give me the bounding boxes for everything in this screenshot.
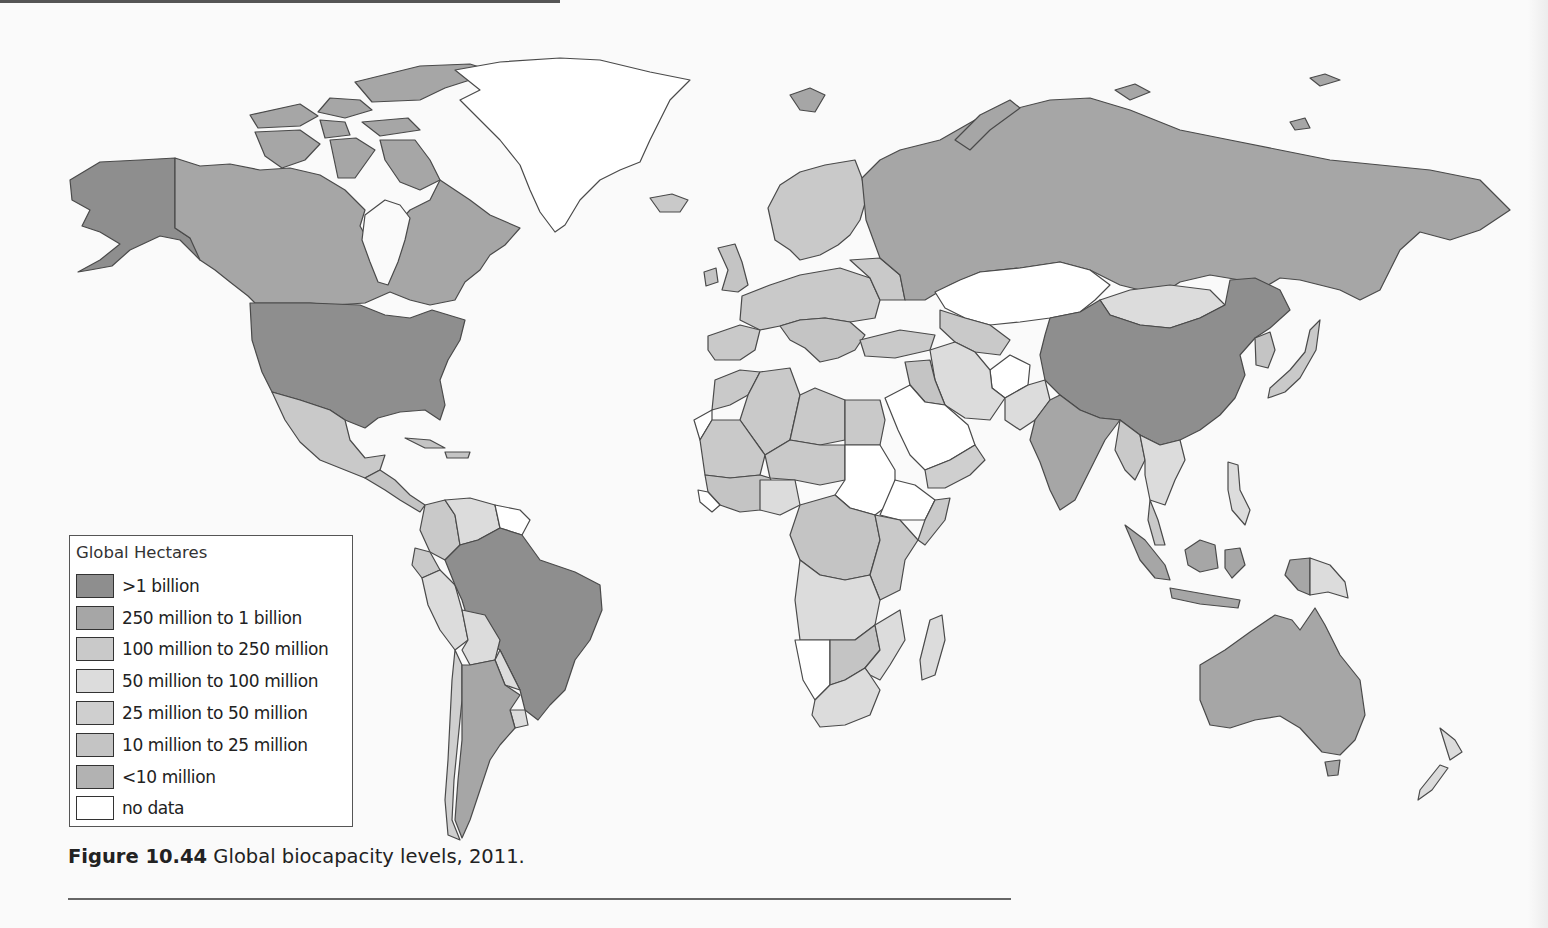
figure-caption: Figure 10.44 Global biocapacity levels, …	[68, 845, 525, 868]
legend-label: no data	[122, 798, 184, 818]
legend-swatch	[76, 574, 114, 598]
region-thailand-indochina	[1140, 435, 1185, 505]
region-madagascar	[920, 615, 945, 680]
caption-divider	[68, 898, 1011, 900]
region-tasmania	[1325, 760, 1340, 776]
legend-title: Global Hectares	[76, 542, 352, 564]
legend-label: 250 million to 1 billion	[122, 608, 302, 628]
region-greenland	[455, 58, 690, 232]
region-new-zealand	[1418, 728, 1462, 800]
legend-item-50m-to-100m: 50 million to 100 million	[76, 665, 352, 697]
region-japan	[1268, 320, 1320, 398]
legend-swatch	[76, 765, 114, 789]
legend-label: >1 billion	[122, 576, 199, 596]
region-norway-sweden-finland	[768, 160, 866, 260]
region-nigeria	[760, 480, 800, 515]
legend-swatch	[76, 701, 114, 725]
region-caribbean	[405, 438, 470, 458]
legend-label: <10 million	[122, 767, 216, 787]
legend-label: 10 million to 25 million	[122, 735, 308, 755]
legend-swatch	[76, 733, 114, 757]
region-russia	[862, 98, 1510, 300]
legend-item-over-1-billion: >1 billion	[76, 570, 352, 602]
region-italy-balkans	[780, 318, 865, 362]
region-canada	[175, 158, 520, 305]
legend-item-100m-to-250m: 100 million to 250 million	[76, 634, 352, 666]
figure-caption-text: Global biocapacity levels, 2011.	[207, 845, 525, 868]
page-edge-shadow	[1528, 0, 1548, 928]
legend-label: 25 million to 50 million	[122, 703, 308, 723]
region-philippines	[1228, 462, 1250, 525]
region-iberia	[708, 325, 760, 360]
legend-item-250m-to-1b: 250 million to 1 billion	[76, 602, 352, 634]
region-turkey	[860, 330, 935, 358]
region-papua-new-guinea	[1310, 558, 1348, 598]
legend-swatch	[76, 796, 114, 820]
region-ireland	[704, 268, 718, 286]
legend-swatch	[76, 637, 114, 661]
legend-item-10m-to-25m: 10 million to 25 million	[76, 729, 352, 761]
region-east-africa	[870, 515, 918, 600]
region-korea	[1255, 332, 1275, 368]
legend-swatch	[76, 606, 114, 630]
region-united-kingdom	[718, 244, 748, 292]
region-australia	[1200, 608, 1365, 755]
legend-item-25m-to-50m: 25 million to 50 million	[76, 697, 352, 729]
region-central-america	[365, 470, 425, 512]
region-malay-peninsula	[1148, 500, 1165, 545]
legend-item-no-data: no data	[76, 793, 352, 825]
legend-item-under-10m: <10 million	[76, 761, 352, 793]
region-egypt	[845, 400, 885, 445]
legend-label: 50 million to 100 million	[122, 671, 318, 691]
region-iceland	[650, 194, 688, 212]
map-legend: Global Hectares >1 billion 250 million t…	[69, 535, 353, 827]
legend-swatch	[76, 669, 114, 693]
legend-label: 100 million to 250 million	[122, 639, 328, 659]
figure-number: Figure 10.44	[68, 845, 207, 868]
